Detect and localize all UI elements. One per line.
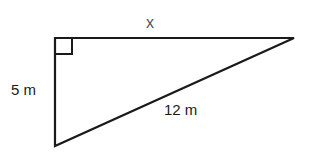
right-angle-marker-icon [55,38,72,54]
triangle-figure [0,0,311,157]
side-label-hypotenuse: 12 m [164,102,197,117]
right-triangle [55,38,294,146]
triangle-diagram: x 5 m 12 m [0,0,311,157]
side-label-left: 5 m [11,82,36,97]
side-label-top: x [146,15,154,31]
